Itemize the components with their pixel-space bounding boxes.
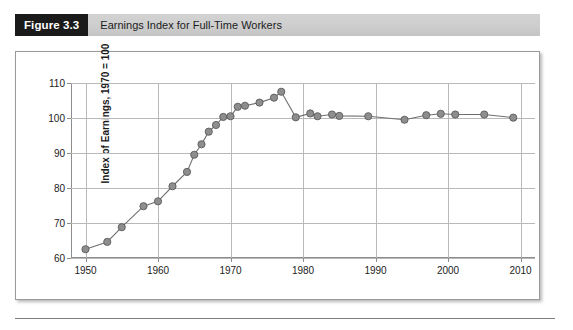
data-series-line xyxy=(71,83,535,258)
data-point-marker xyxy=(154,198,161,205)
data-point-marker xyxy=(191,151,198,158)
x-tick-mark xyxy=(521,258,522,262)
data-point-marker xyxy=(314,113,321,120)
data-point-marker xyxy=(169,183,176,190)
x-tick-label: 2010 xyxy=(509,265,531,276)
x-tick-label: 2000 xyxy=(437,265,459,276)
data-point-marker xyxy=(198,141,205,148)
data-point-marker xyxy=(205,128,212,135)
data-point-marker xyxy=(328,111,335,118)
data-point-marker xyxy=(437,110,444,117)
plot-area: 60708090100110 1950196019701980199020002… xyxy=(71,83,535,258)
data-point-marker xyxy=(278,88,285,95)
data-point-marker xyxy=(510,114,517,121)
x-tick-mark xyxy=(448,258,449,262)
data-point-marker xyxy=(452,111,459,118)
x-tick-mark xyxy=(158,258,159,262)
data-point-marker xyxy=(270,94,277,101)
figure-number-label: Figure 3.3 xyxy=(15,14,88,36)
data-point-marker xyxy=(336,112,343,119)
data-point-marker xyxy=(212,121,219,128)
x-tick-label: 1950 xyxy=(74,265,96,276)
data-point-marker xyxy=(220,113,227,120)
x-tick-mark xyxy=(376,258,377,262)
data-point-marker xyxy=(227,113,234,120)
data-point-marker xyxy=(292,114,299,121)
figure-caption-text: Earnings Index for Full-Time Workers xyxy=(88,14,282,36)
chart-panel: Index of Earnings, 1970 = 100 6070809010… xyxy=(15,51,540,300)
page-divider-rule xyxy=(15,318,555,319)
data-point-marker xyxy=(104,238,111,245)
data-point-marker xyxy=(183,168,190,175)
x-tick-mark xyxy=(86,258,87,262)
data-point-marker xyxy=(234,103,241,110)
data-point-marker xyxy=(82,246,89,253)
y-tick-label: 90 xyxy=(54,148,65,159)
data-point-marker xyxy=(307,110,314,117)
data-point-marker xyxy=(256,99,263,106)
data-point-marker xyxy=(118,224,125,231)
x-tick-label: 1980 xyxy=(292,265,314,276)
data-point-marker xyxy=(241,102,248,109)
y-tick-label: 100 xyxy=(48,113,65,124)
data-point-marker xyxy=(423,112,430,119)
data-point-marker xyxy=(401,116,408,123)
y-tick-label: 110 xyxy=(49,78,65,89)
x-tick-mark xyxy=(231,258,232,262)
y-tick-label: 60 xyxy=(54,253,65,264)
data-point-marker xyxy=(140,203,147,210)
y-tick-label: 80 xyxy=(54,183,65,194)
x-tick-label: 1970 xyxy=(219,265,241,276)
x-tick-mark xyxy=(303,258,304,262)
x-tick-label: 1990 xyxy=(364,265,386,276)
figure-caption-band: Figure 3.3 Earnings Index for Full-Time … xyxy=(15,14,540,36)
data-point-marker xyxy=(365,113,372,120)
x-tick-label: 1960 xyxy=(147,265,169,276)
data-point-marker xyxy=(481,111,488,118)
y-tick-label: 70 xyxy=(54,218,65,229)
y-tick-mark xyxy=(67,258,71,259)
series-polyline xyxy=(86,92,514,250)
